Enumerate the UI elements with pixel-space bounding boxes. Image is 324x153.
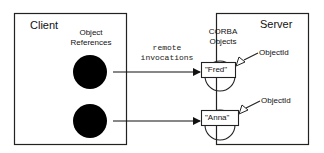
- objectid-arrowhead-2: [239, 105, 248, 114]
- anna-object-name: "Anna": [205, 113, 229, 122]
- objectid-arrowhead-1: [236, 57, 245, 66]
- server-title: Server: [260, 18, 292, 30]
- fred-object-name: "Fred": [205, 65, 227, 74]
- remote-invocations-label: remote invocations: [131, 43, 203, 63]
- corba-diagram: Client Object References Server CORBA Ob…: [0, 0, 324, 153]
- object-reference-1: [73, 55, 107, 89]
- objectid-label-1: ObjectId: [259, 48, 289, 57]
- client-title: Client: [30, 19, 58, 31]
- objectid-label-2: ObjectId: [261, 96, 291, 105]
- object-reference-2: [73, 104, 107, 138]
- object-references-label: Object References: [68, 28, 114, 48]
- corba-objects-label: CORBA Objects: [204, 27, 242, 47]
